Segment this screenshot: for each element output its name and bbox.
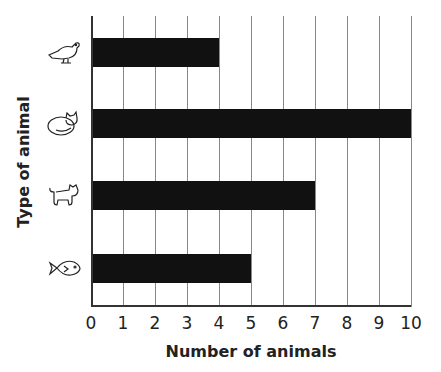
x-tick-label: 0 bbox=[79, 313, 103, 333]
x-axis-label: Number of animals bbox=[91, 342, 411, 361]
x-tick-label: 5 bbox=[239, 313, 263, 333]
grid-line bbox=[379, 16, 380, 307]
x-axis bbox=[91, 305, 411, 307]
cat-icon bbox=[44, 108, 84, 138]
grid-line bbox=[315, 16, 316, 307]
x-tick-label: 4 bbox=[207, 313, 231, 333]
x-tick-label: 9 bbox=[367, 313, 391, 333]
x-tick-label: 6 bbox=[271, 313, 295, 333]
bar-dog bbox=[91, 181, 315, 210]
grid-line bbox=[283, 16, 284, 307]
bar-fish bbox=[91, 254, 251, 283]
y-axis-label: Type of animal bbox=[14, 96, 33, 227]
bird-icon bbox=[44, 37, 84, 67]
x-tick-label: 8 bbox=[335, 313, 359, 333]
plot-area bbox=[91, 16, 411, 307]
fish-icon bbox=[44, 253, 84, 283]
bar-cat bbox=[91, 109, 411, 138]
grid-line bbox=[251, 16, 252, 307]
x-tick-label: 7 bbox=[303, 313, 327, 333]
bar-bird bbox=[91, 38, 219, 67]
x-tick-label: 10 bbox=[399, 313, 423, 333]
grid-line bbox=[411, 16, 412, 307]
x-tick-label: 1 bbox=[111, 313, 135, 333]
x-tick-label: 2 bbox=[143, 313, 167, 333]
x-tick-label: 3 bbox=[175, 313, 199, 333]
y-axis bbox=[91, 16, 93, 307]
grid-line bbox=[347, 16, 348, 307]
dog-icon bbox=[44, 180, 84, 210]
